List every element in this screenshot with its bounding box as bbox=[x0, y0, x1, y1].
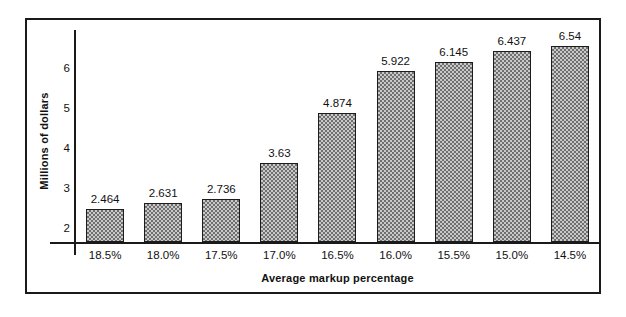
bars-plot-area: 2.4642.6312.7363.634.8745.9226.1456.4376… bbox=[76, 18, 599, 242]
bar-value-label: 6.145 bbox=[421, 46, 487, 58]
bar-value-label: 6.54 bbox=[537, 30, 603, 42]
y-axis-tick-label: 3 bbox=[48, 182, 70, 194]
bar-value-label: 2.631 bbox=[130, 187, 196, 199]
bar-value-label: 2.464 bbox=[72, 193, 138, 205]
bar-chart-figure: Millions of dollars 65432 2.4642.6312.73… bbox=[0, 0, 626, 317]
x-axis-tick-label: 15.0% bbox=[483, 249, 541, 261]
y-axis-tick-label: 6 bbox=[48, 62, 70, 74]
bar[interactable] bbox=[86, 209, 124, 242]
x-axis-tick-label: 17.0% bbox=[250, 249, 308, 261]
x-axis-tick-label: 17.5% bbox=[192, 249, 250, 261]
x-axis-tick-label: 18.0% bbox=[134, 249, 192, 261]
bar-slot: 2.464 bbox=[76, 18, 134, 242]
bar-slot: 6.437 bbox=[483, 18, 541, 242]
bar[interactable] bbox=[144, 203, 182, 242]
y-axis-tick-label: 5 bbox=[48, 102, 70, 114]
bar-value-label: 2.736 bbox=[188, 183, 254, 195]
bar[interactable] bbox=[318, 113, 356, 242]
x-axis-tick-label: 15.5% bbox=[425, 249, 483, 261]
bar-value-label: 5.922 bbox=[363, 55, 429, 67]
bar-value-label: 3.63 bbox=[246, 147, 312, 159]
y-axis-tick-label: 4 bbox=[48, 142, 70, 154]
y-axis-tick-labels: 65432 bbox=[44, 0, 70, 317]
x-axis-tick-label: 16.0% bbox=[367, 249, 425, 261]
x-axis-title: Average markup percentage bbox=[76, 272, 599, 284]
x-axis-tick-label: 18.5% bbox=[76, 249, 134, 261]
y-axis-tick-label: 2 bbox=[48, 222, 70, 234]
bar-slot: 5.922 bbox=[367, 18, 425, 242]
bar-value-label: 6.437 bbox=[479, 35, 545, 47]
bar-value-label: 4.874 bbox=[305, 97, 371, 109]
bar[interactable] bbox=[493, 51, 531, 242]
bar[interactable] bbox=[551, 46, 589, 242]
bar[interactable] bbox=[377, 71, 415, 242]
bar[interactable] bbox=[260, 163, 298, 242]
bar-slot: 4.874 bbox=[308, 18, 366, 242]
bar-slot: 6.145 bbox=[425, 18, 483, 242]
x-axis-tick-label: 16.5% bbox=[308, 249, 366, 261]
bar-slot: 2.631 bbox=[134, 18, 192, 242]
bar-slot: 6.54 bbox=[541, 18, 599, 242]
x-axis-tick-label: 14.5% bbox=[541, 249, 599, 261]
x-axis-tick-labels: 18.5%18.0%17.5%17.0%16.5%16.0%15.5%15.0%… bbox=[76, 249, 599, 269]
x-axis-line bbox=[50, 242, 601, 244]
bar-slot: 3.63 bbox=[250, 18, 308, 242]
bar[interactable] bbox=[435, 62, 473, 242]
bar[interactable] bbox=[202, 199, 240, 242]
bar-slot: 2.736 bbox=[192, 18, 250, 242]
